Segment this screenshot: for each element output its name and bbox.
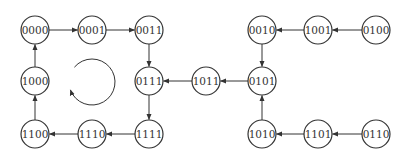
state-node-0100: 0100 [362, 16, 390, 44]
state-node-0000: 0000 [21, 16, 49, 44]
state-node-1101: 1101 [304, 120, 332, 148]
node-label: 0010 [249, 24, 276, 36]
node-label: 1011 [193, 75, 220, 87]
node-label: 1010 [249, 128, 276, 140]
state-node-0011: 0011 [135, 16, 163, 44]
cycle-indicator [70, 59, 115, 105]
node-label: 0111 [136, 75, 163, 87]
node-label: 0100 [363, 24, 390, 36]
state-node-1111: 1111 [135, 120, 163, 148]
node-label: 0000 [22, 24, 49, 36]
nodes-layer: 0000000100111000011111001110111110110010… [21, 16, 390, 148]
node-label: 1101 [305, 128, 332, 140]
node-label: 1000 [22, 75, 49, 87]
state-node-1001: 1001 [304, 16, 332, 44]
state-node-1010: 1010 [248, 120, 276, 148]
state-node-1100: 1100 [21, 120, 49, 148]
state-node-0101: 0101 [248, 67, 276, 95]
state-node-0001: 0001 [78, 16, 106, 44]
node-label: 0011 [136, 24, 163, 36]
state-node-1011: 1011 [192, 67, 220, 95]
node-label: 1001 [305, 24, 332, 36]
node-label: 1100 [22, 128, 49, 140]
state-node-1000: 1000 [21, 67, 49, 95]
node-label: 1111 [136, 128, 163, 140]
diagram-svg: 0000000100111000011111001110111110110010… [0, 0, 410, 157]
state-node-0010: 0010 [248, 16, 276, 44]
state-node-0110: 0110 [362, 120, 390, 148]
node-label: 1110 [79, 128, 106, 140]
node-label: 0110 [363, 128, 390, 140]
state-node-0111: 0111 [135, 67, 163, 95]
node-label: 0101 [249, 75, 276, 87]
state-diagram: 0000000100111000011111001110111110110010… [0, 0, 410, 157]
cycle-arrow-icon [70, 59, 115, 105]
node-label: 0001 [79, 24, 106, 36]
state-node-1110: 1110 [78, 120, 106, 148]
